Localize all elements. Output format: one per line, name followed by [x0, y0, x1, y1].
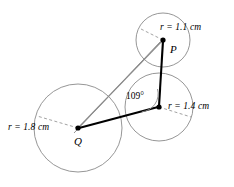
point-label-q: Q — [74, 136, 82, 147]
radius-label-q: r = 1.8 cm — [8, 123, 49, 133]
radius-label-p: r = 1.1 cm — [160, 23, 201, 33]
radius-label-q-text: r = 1.8 cm — [8, 122, 49, 132]
radius-label-r: r = 1.4 cm — [168, 102, 209, 112]
segment-p-to-q-lower — [74, 42, 160, 133]
geometry-figure: r = 1.1 cm r = 1.8 cm r = 1.4 cm P Q 109… — [0, 0, 234, 187]
center-dot-r — [156, 104, 161, 109]
center-dot-p — [160, 37, 165, 42]
radius-label-p-text: r = 1.1 cm — [160, 22, 201, 32]
radius-label-r-text: r = 1.4 cm — [168, 101, 209, 111]
center-dot-q — [75, 125, 80, 130]
angle-label-109: 109° — [126, 92, 144, 102]
point-label-p: P — [170, 44, 177, 55]
